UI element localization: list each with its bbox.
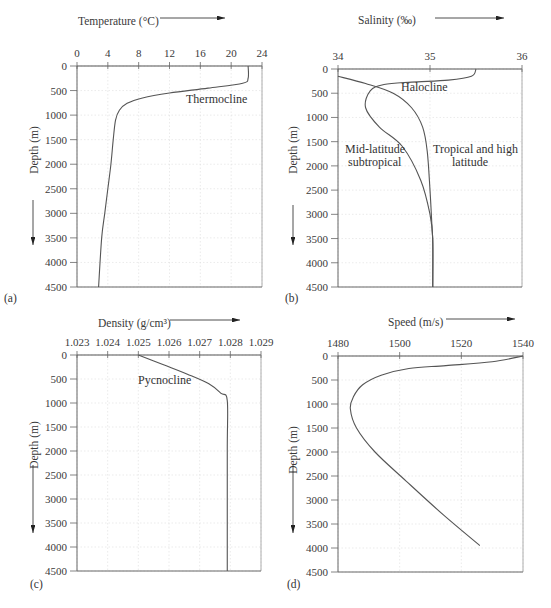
svg-text:4500: 4500 <box>45 281 68 293</box>
svg-text:2500: 2500 <box>45 469 68 481</box>
panel-b-label: (b) <box>285 292 299 305</box>
panel-d-xlabel: Speed (m/s) <box>388 316 443 329</box>
tropical-annotation-line1: Tropical and high <box>433 142 518 156</box>
svg-text:0: 0 <box>323 350 329 362</box>
svg-text:Depth (m): Depth (m) <box>287 426 300 474</box>
svg-text:4000: 4000 <box>306 542 329 554</box>
svg-text:35: 35 <box>425 50 437 62</box>
svg-text:1500: 1500 <box>45 421 68 433</box>
data-curve <box>338 76 433 287</box>
svg-text:1.027: 1.027 <box>187 336 212 348</box>
svg-text:1480: 1480 <box>327 337 350 349</box>
panel-b-xlabel: Salinity (‰) <box>358 14 416 27</box>
svg-text:3500: 3500 <box>45 517 68 529</box>
figure-canvas: 0481216202405001000150020002500300035004… <box>0 0 551 608</box>
svg-text:3500: 3500 <box>306 233 329 245</box>
svg-text:3000: 3000 <box>306 494 329 506</box>
svg-text:Depth (m): Depth (m) <box>28 126 41 174</box>
svg-text:2000: 2000 <box>45 445 68 457</box>
data-curve <box>365 69 476 287</box>
svg-text:500: 500 <box>312 374 329 386</box>
svg-text:2000: 2000 <box>45 158 68 170</box>
svg-text:2500: 2500 <box>306 184 329 196</box>
svg-text:20: 20 <box>226 47 238 59</box>
panel-d-sound-speed: 1480150015201540050010001500200025003000… <box>287 319 535 578</box>
panel-c-label: (c) <box>30 578 43 591</box>
svg-text:1.029: 1.029 <box>249 336 274 348</box>
svg-text:36: 36 <box>517 50 529 62</box>
pycnocline-annotation: Pycnocline <box>138 373 191 387</box>
svg-text:2500: 2500 <box>45 183 68 195</box>
svg-text:4500: 4500 <box>306 566 329 578</box>
svg-text:Depth (m): Depth (m) <box>28 421 41 469</box>
svg-text:3000: 3000 <box>45 207 68 219</box>
svg-text:500: 500 <box>51 85 68 97</box>
panel-a-xlabel: Temperature (°C) <box>78 15 159 28</box>
svg-text:1000: 1000 <box>306 398 329 410</box>
svg-text:0: 0 <box>74 47 80 59</box>
svg-text:16: 16 <box>195 47 207 59</box>
svg-text:34: 34 <box>333 50 345 62</box>
data-curve <box>138 355 227 571</box>
panel-c-xlabel: Density (g/cm³) <box>98 317 171 330</box>
svg-text:Depth (m): Depth (m) <box>287 126 300 174</box>
panel-a-temperature: 0481216202405001000150020002500300035004… <box>28 18 268 293</box>
svg-text:1000: 1000 <box>45 397 68 409</box>
svg-text:1.023: 1.023 <box>65 336 90 348</box>
panel-d-label: (d) <box>287 578 301 591</box>
svg-text:0: 0 <box>323 63 329 75</box>
svg-text:0: 0 <box>62 60 68 72</box>
svg-text:1500: 1500 <box>389 337 412 349</box>
tropical-annotation-line2: latitude <box>452 155 488 169</box>
panel-c-density: 1.0231.0241.0251.0261.0271.0281.02905001… <box>28 320 274 577</box>
thermocline-annotation: Thermocline <box>186 92 247 106</box>
mid-latitude-annotation-line2: subtropical <box>348 155 402 169</box>
halocline-annotation: Halocline <box>401 80 448 94</box>
svg-text:0: 0 <box>62 349 68 361</box>
svg-text:500: 500 <box>312 87 329 99</box>
mid-latitude-annotation-line1: Mid-latitude <box>345 142 405 156</box>
data-curve <box>350 356 523 546</box>
svg-text:1540: 1540 <box>512 337 535 349</box>
svg-text:4500: 4500 <box>306 281 329 293</box>
svg-text:1000: 1000 <box>306 111 329 123</box>
svg-text:3000: 3000 <box>45 493 68 505</box>
svg-text:500: 500 <box>51 373 68 385</box>
svg-text:1500: 1500 <box>306 136 329 148</box>
svg-text:3500: 3500 <box>306 518 329 530</box>
svg-text:2500: 2500 <box>306 470 329 482</box>
panel-a-label: (a) <box>4 292 17 305</box>
svg-text:4500: 4500 <box>45 565 68 577</box>
svg-text:4000: 4000 <box>45 541 68 553</box>
svg-text:4: 4 <box>105 47 111 59</box>
svg-text:1.025: 1.025 <box>126 336 151 348</box>
svg-text:1.024: 1.024 <box>95 336 120 348</box>
svg-text:2000: 2000 <box>306 160 329 172</box>
svg-text:2000: 2000 <box>306 446 329 458</box>
svg-text:1.028: 1.028 <box>218 336 243 348</box>
svg-text:1000: 1000 <box>45 109 68 121</box>
svg-text:24: 24 <box>257 47 269 59</box>
svg-text:3000: 3000 <box>306 208 329 220</box>
svg-text:12: 12 <box>164 47 175 59</box>
svg-text:1520: 1520 <box>450 337 473 349</box>
svg-text:3500: 3500 <box>45 232 68 244</box>
svg-text:1500: 1500 <box>45 134 68 146</box>
svg-text:1500: 1500 <box>306 422 329 434</box>
svg-text:4000: 4000 <box>306 257 329 269</box>
svg-text:4000: 4000 <box>45 256 68 268</box>
svg-text:8: 8 <box>136 47 142 59</box>
svg-text:1.026: 1.026 <box>157 336 182 348</box>
